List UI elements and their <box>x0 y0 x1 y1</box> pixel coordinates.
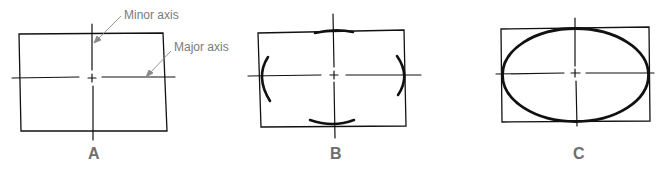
panel-a-major-axis-left <box>12 77 79 78</box>
panel-b-caption: B <box>330 145 342 163</box>
panel-c-major-axis-left <box>496 73 564 74</box>
panel-c-drawing <box>496 18 654 126</box>
panel-c-minor-axis-bottom <box>576 81 577 126</box>
major-axis-leader <box>149 51 171 74</box>
panel-b-arc-left <box>262 57 270 101</box>
panel-a-drawing <box>12 24 175 140</box>
panel-b-drawing <box>248 14 421 138</box>
panel-b-minor-axis-top <box>333 14 334 67</box>
leader-lines <box>94 16 171 77</box>
panel-b-rectangle <box>258 30 406 127</box>
major-axis-label: Major axis <box>174 40 229 54</box>
panel-b-arc-bottom <box>310 120 354 124</box>
minor-axis-leader <box>97 16 121 40</box>
minor-axis-label: Minor axis <box>124 8 179 22</box>
panel-b-minor-axis-bottom <box>334 82 335 138</box>
panel-c-caption: C <box>573 145 585 163</box>
panel-a-caption: A <box>88 145 100 163</box>
